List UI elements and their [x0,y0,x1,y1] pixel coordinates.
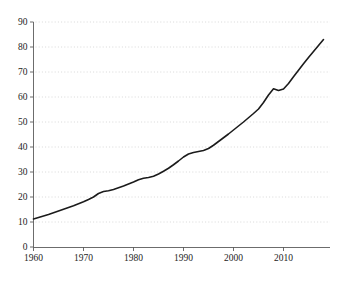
chart-figure: 0102030405060708090 19601970198019902000… [0,0,342,290]
x-tick-label-0: 1960 [24,253,43,263]
x-tick-label-4: 2000 [224,253,243,263]
line-chart: 0102030405060708090 19601970198019902000… [0,0,342,290]
y-axis-ticks: 0102030405060708090 [18,17,34,252]
y-tick-label-7: 70 [18,67,28,77]
x-tick-label-2: 1980 [124,253,143,263]
x-tick-label-1: 1970 [74,253,93,263]
gridlines [36,22,331,222]
y-tick-label-5: 50 [18,117,28,127]
x-axis-ticks: 196019701980199020002010 [24,247,293,263]
y-tick-label-4: 40 [18,142,28,152]
y-tick-label-3: 30 [18,167,28,177]
y-tick-label-9: 90 [18,17,28,27]
data-series-line [34,40,324,220]
y-tick-label-2: 20 [18,192,28,202]
x-tick-label-3: 1990 [174,253,193,263]
y-tick-label-1: 10 [18,217,28,227]
y-tick-label-0: 0 [23,242,28,252]
y-tick-label-8: 80 [18,42,28,52]
y-tick-label-6: 60 [18,92,28,102]
x-tick-label-5: 2010 [274,253,293,263]
